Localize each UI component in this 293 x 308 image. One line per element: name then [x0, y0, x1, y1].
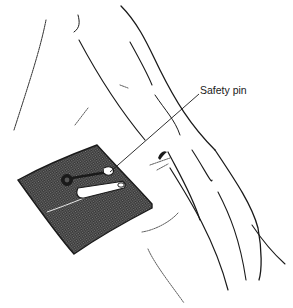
- label-leader-line: [110, 94, 199, 172]
- gauze-dressing: [18, 145, 152, 254]
- navel-mark: [158, 151, 167, 160]
- safety-pin-label: Safety pin: [200, 84, 247, 96]
- torso-outline: [14, 6, 285, 303]
- medical-illustration: [0, 0, 293, 308]
